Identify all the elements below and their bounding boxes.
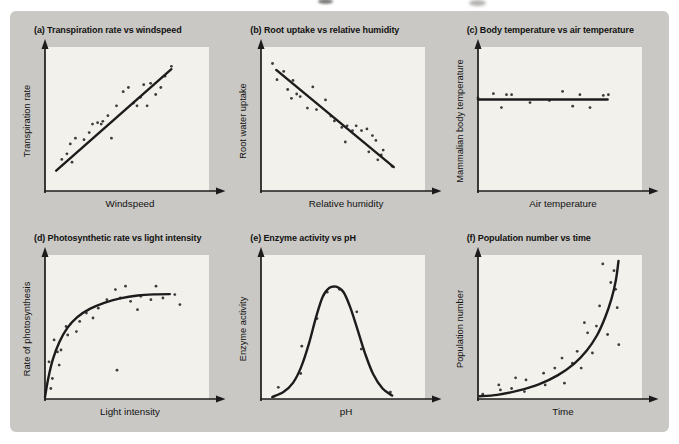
svg-text:Air temperature: Air temperature (529, 198, 597, 209)
svg-text:Transpiration rate: Transpiration rate (22, 85, 32, 158)
chart-panel-f: (f) Population number vs time Population… (448, 222, 664, 430)
svg-text:Mammalian body temperature: Mammalian body temperature (455, 59, 465, 183)
chart-canvas-root-uptake-vs-humidity: Root water uptakeRelative humidity (235, 39, 445, 215)
chart-title: (c) Body temperature vs air temperature (467, 25, 634, 35)
svg-text:Relative humidity: Relative humidity (309, 198, 384, 209)
chart-panel-b: (b) Root uptake vs relative humidity Roo… (231, 14, 447, 222)
chart-panel-c: (c) Body temperature vs air temperature … (448, 14, 664, 222)
chart-title: (f) Population number vs time (467, 233, 591, 243)
chart-title: (a) Transpiration rate vs windspeed (34, 25, 182, 35)
chart-title: (b) Root uptake vs relative humidity (250, 25, 399, 35)
chart-panel-a: (a) Transpiration rate vs windspeed Tran… (15, 14, 231, 222)
svg-text:Time: Time (552, 406, 574, 417)
chart-panel-d: (d) Photosynthetic rate vs light intensi… (15, 222, 231, 430)
chart-canvas-transpiration-vs-windspeed: Transpiration rateWindspeed (19, 39, 229, 215)
chart-title: (e) Enzyme activity vs pH (250, 233, 356, 243)
svg-text:Enzyme activity: Enzyme activity (238, 296, 248, 361)
svg-text:pH: pH (340, 406, 353, 417)
chart-canvas-population-vs-time: Population numberTime (452, 247, 662, 423)
chart-canvas-photosynthesis-vs-light: Rate of photosynthesisLight intensity (19, 247, 229, 423)
chart-canvas-enzyme-activity-vs-ph: Enzyme activitypH (235, 247, 445, 423)
figure-sheet: (a) Transpiration rate vs windspeed Tran… (10, 11, 669, 432)
chart-title: (d) Photosynthetic rate vs light intensi… (34, 233, 201, 243)
charts-grid: (a) Transpiration rate vs windspeed Tran… (10, 11, 669, 432)
chart-panel-e: (e) Enzyme activity vs pH Enzyme activit… (231, 222, 447, 430)
scan-artifact (318, 0, 333, 4)
svg-text:Windspeed: Windspeed (105, 198, 154, 209)
chart-canvas-body-temp-vs-air-temp: Mammalian body temperatureAir temperatur… (452, 39, 662, 215)
svg-text:Light intensity: Light intensity (100, 406, 160, 417)
svg-text:Root water uptake: Root water uptake (238, 83, 248, 158)
scan-artifact (469, 0, 486, 6)
svg-text:Rate of photosynthesis: Rate of photosynthesis (22, 281, 32, 376)
svg-text:Population number: Population number (455, 289, 465, 367)
